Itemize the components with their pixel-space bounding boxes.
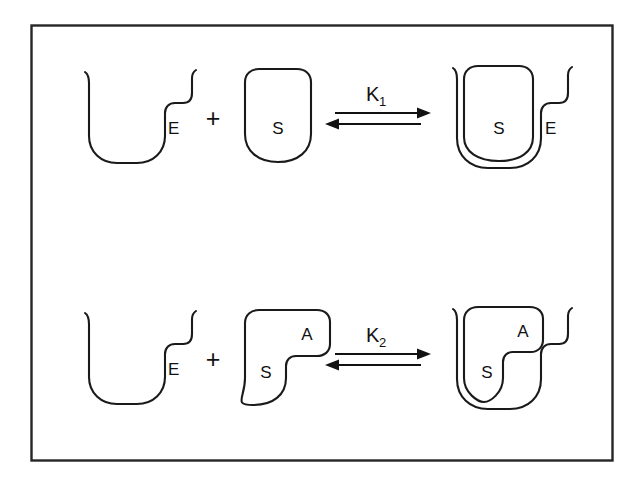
arrow-head-forward-row1 bbox=[417, 108, 431, 119]
enzyme-label-row1: E bbox=[168, 119, 179, 138]
analog-tab-label-row2: A bbox=[301, 325, 313, 344]
complex-substrate-label-row2: S bbox=[481, 363, 492, 382]
equilibrium-subscript-row1: 1 bbox=[379, 94, 386, 109]
equilibrium-constant-row1: K bbox=[366, 83, 380, 105]
enzyme-shape-row2 bbox=[85, 311, 196, 404]
substrate-label-row1: S bbox=[272, 119, 283, 138]
arrow-head-reverse-row1 bbox=[325, 119, 339, 130]
substrate-analog-label-row2: S bbox=[260, 363, 271, 382]
plus-sign-row1: + bbox=[206, 104, 221, 132]
enzyme-shape-row1 bbox=[85, 70, 196, 163]
arrow-head-forward-row2 bbox=[417, 349, 431, 360]
complex-enzyme-label-row1: E bbox=[545, 119, 556, 138]
substrate-shape-row1 bbox=[245, 69, 311, 162]
reaction-scheme-diagram: E + S K 1 S bbox=[0, 0, 634, 486]
arrow-head-reverse-row2 bbox=[325, 360, 339, 371]
complex-substrate-outline-row2 bbox=[464, 307, 543, 402]
complex-substrate-label-row1: S bbox=[493, 119, 504, 138]
enzyme-label-row2: E bbox=[168, 360, 179, 379]
equilibrium-subscript-row2: 2 bbox=[379, 335, 386, 350]
plus-sign-row2: + bbox=[206, 345, 221, 373]
equilibrium-arrow-row1 bbox=[325, 108, 431, 130]
reaction-row-1: E + S K 1 S bbox=[85, 66, 572, 168]
substrate-analog-shape-row2 bbox=[241, 310, 330, 405]
equilibrium-constant-row2: K bbox=[366, 324, 380, 346]
figure-border bbox=[32, 26, 613, 461]
reaction-row-2: E + S A K 2 bbox=[85, 307, 572, 409]
complex-substrate-outline-row1 bbox=[464, 66, 533, 161]
figure-root: E + S K 1 S bbox=[0, 0, 634, 486]
equilibrium-arrow-row2 bbox=[325, 349, 431, 371]
complex-tab-label-row2: A bbox=[517, 322, 529, 341]
